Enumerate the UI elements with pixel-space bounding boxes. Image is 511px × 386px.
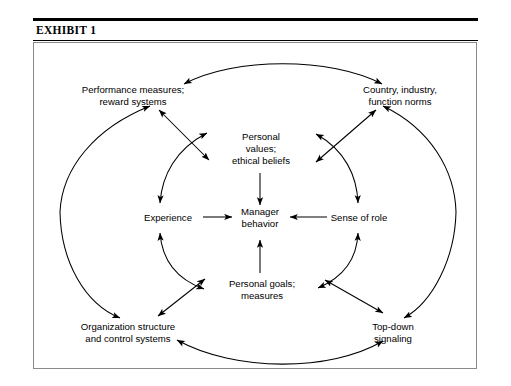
edge-country-to-personal-values bbox=[316, 110, 376, 162]
influence-diagram: Performance measures; reward systems Cou… bbox=[0, 0, 511, 386]
node-country-industry-norms-line-1: Country, industry, bbox=[363, 84, 437, 95]
node-manager-behavior-line-2: behavior bbox=[242, 218, 280, 229]
node-top-down-signaling: Top-down signaling bbox=[372, 321, 414, 344]
node-manager-behavior-line-1: Manager bbox=[241, 206, 280, 217]
node-personal-goals-line-2: measures bbox=[241, 290, 283, 301]
node-experience: Experience bbox=[144, 212, 192, 223]
node-personal-values: Personal values; ethical beliefs bbox=[232, 131, 290, 166]
edge-topdown-to-sense-of-role bbox=[404, 212, 456, 318]
node-top-down-signaling-line-2: signaling bbox=[374, 333, 412, 344]
node-manager-behavior: Manager behavior bbox=[241, 206, 280, 229]
edge-country-to-sense-of-role bbox=[383, 106, 456, 212]
node-top-down-signaling-line-1: Top-down bbox=[372, 321, 414, 332]
node-country-industry-norms: Country, industry, function norms bbox=[363, 84, 437, 107]
node-personal-goals-line-1: Personal goals; bbox=[229, 278, 295, 289]
node-sense-of-role: Sense of role bbox=[331, 212, 388, 223]
node-country-industry-norms-line-2: function norms bbox=[369, 96, 432, 107]
edge-performance-to-country-norms bbox=[184, 64, 382, 84]
node-personal-values-line-2: values; bbox=[246, 143, 276, 154]
node-experience-label: Experience bbox=[144, 212, 192, 223]
edge-organization-to-personal-goals bbox=[158, 279, 205, 316]
node-performance-measures-line-2: reward systems bbox=[99, 96, 166, 107]
node-performance-measures: Performance measures; reward systems bbox=[82, 84, 184, 107]
node-performance-measures-line-1: Performance measures; bbox=[82, 84, 184, 95]
exhibit-page: EXHIBIT 1 bbox=[0, 0, 511, 386]
edge-sense-of-role-to-personal-goals bbox=[318, 233, 358, 288]
edge-topdown-to-personal-goals bbox=[325, 280, 383, 313]
edge-performance-to-experience bbox=[60, 106, 150, 212]
edge-performance-to-personal-values bbox=[159, 110, 209, 160]
node-personal-values-line-1: Personal bbox=[242, 131, 280, 142]
node-sense-of-role-label: Sense of role bbox=[331, 212, 388, 223]
edge-personal-goals-to-experience bbox=[160, 233, 204, 289]
node-organization-structure-line-1: Organization structure bbox=[81, 321, 175, 332]
node-organization-structure: Organization structure and control syste… bbox=[81, 321, 175, 344]
node-personal-goals: Personal goals; measures bbox=[229, 278, 295, 301]
node-personal-values-line-3: ethical beliefs bbox=[232, 155, 290, 166]
edge-organization-to-experience bbox=[60, 212, 120, 318]
edge-organization-to-topdown bbox=[177, 340, 383, 364]
edge-experience-to-personal-values bbox=[160, 133, 207, 203]
node-organization-structure-line-2: and control systems bbox=[85, 333, 171, 344]
